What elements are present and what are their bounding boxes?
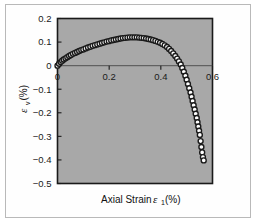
data-point: [198, 139, 203, 144]
y-axis-title-symbol: ε: [17, 108, 29, 113]
y-tick-label: 0.1: [38, 36, 51, 47]
x-tick-label: 0: [55, 71, 60, 82]
y-axis-title-units: (%): [18, 85, 29, 101]
figure-container: −0.5−0.4−0.3−0.2−0.100.10.2 00.20.40.6 A…: [0, 0, 257, 224]
x-axis-title-text: Axial Strain: [101, 194, 152, 205]
y-tick-label: −0.3: [33, 131, 52, 142]
data-point: [201, 158, 206, 163]
x-axis-title: Axial Strain ε 1 (%): [101, 193, 181, 206]
x-axis-title-units: (%): [165, 194, 181, 205]
y-tick-label: −0.5: [33, 178, 52, 189]
data-point: [199, 144, 204, 149]
x-tick-label: 0.2: [103, 71, 116, 82]
x-tick-label: 0.6: [206, 71, 219, 82]
y-tick-label: −0.2: [33, 107, 52, 118]
volumetric-strain-chart: −0.5−0.4−0.3−0.2−0.100.10.2 00.20.40.6 A…: [0, 0, 257, 224]
x-axis-title-symbol: ε: [153, 193, 158, 205]
y-tick-label: −0.4: [33, 154, 52, 165]
y-tick-label: −0.1: [33, 84, 52, 95]
plot-area-background: [58, 19, 213, 184]
y-axis-title-subscript: v: [24, 101, 31, 105]
data-point: [197, 132, 202, 137]
y-tick-label: 0: [46, 60, 51, 71]
y-tick-label: 0.2: [38, 13, 51, 24]
y-axis-title: ε v (%): [17, 85, 31, 113]
x-tick-label: 0.4: [154, 71, 167, 82]
